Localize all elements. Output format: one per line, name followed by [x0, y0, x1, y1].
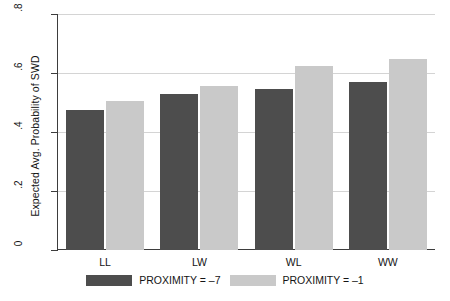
x-axis-tick-label-ww: WW	[348, 256, 428, 268]
bar-ll-series2	[106, 101, 144, 250]
tick-mark	[51, 250, 58, 251]
bar-lw-series1	[160, 94, 198, 250]
y-axis-tick-label: .8	[13, 0, 24, 20]
chart-legend: PROXIMITY = –7PROXIMITY = –1	[0, 274, 450, 286]
x-axis-tick-label-wl: WL	[254, 256, 334, 268]
tick-mark	[51, 191, 58, 192]
bar-ww-series1	[349, 82, 387, 250]
tick-mark	[51, 73, 58, 74]
y-axis-tick-label: .2	[13, 173, 24, 197]
y-axis-tick-label: .6	[13, 55, 24, 79]
legend-label-1: PROXIMITY = –7	[139, 274, 220, 286]
bar-lw-series2	[200, 86, 238, 250]
bar-wl-series2	[295, 66, 333, 250]
y-axis-title: Expected Avg. Probability of SWD	[29, 36, 41, 236]
bar-group-lw	[160, 14, 238, 250]
legend-swatch-2	[230, 275, 276, 286]
bar-chart-figure: Expected Avg. Probability of SWD 0.2.4.6…	[0, 0, 450, 301]
bars-layer	[58, 14, 435, 250]
tick-mark	[51, 132, 58, 133]
y-axis-tick-label: .4	[13, 114, 24, 138]
legend-item-2: PROXIMITY = –1	[230, 274, 364, 286]
bar-ww-series2	[389, 59, 427, 250]
bar-group-wl	[255, 14, 333, 250]
bar-ll-series1	[66, 110, 104, 250]
legend-label-2: PROXIMITY = –1	[283, 274, 364, 286]
bar-wl-series1	[255, 89, 293, 250]
bar-group-ll	[66, 14, 144, 250]
legend-item-1: PROXIMITY = –7	[86, 274, 220, 286]
x-axis-tick-label-lw: LW	[159, 256, 239, 268]
plot-area: 0.2.4.6.8	[57, 14, 435, 250]
tick-mark	[51, 14, 58, 15]
bar-group-ww	[349, 14, 427, 250]
legend-swatch-1	[86, 275, 132, 286]
y-axis-tick-label: 0	[13, 232, 24, 256]
x-axis-tick-label-ll: LL	[65, 256, 145, 268]
